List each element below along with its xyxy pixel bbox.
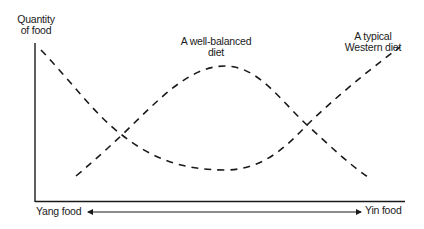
x-axis-right-label: Yin food — [365, 205, 402, 216]
y-axis-label: Quantity of food — [14, 14, 58, 36]
x-axis-left-label: Yang food — [36, 206, 81, 217]
y-axis-label-line2: of food — [14, 25, 58, 36]
balanced-diet-curve — [76, 66, 368, 177]
western-diet-label-line2: Western diet — [338, 42, 408, 53]
western-diet-label: A typical Western diet — [338, 31, 408, 53]
balanced-diet-label-line2: diet — [166, 47, 266, 58]
balanced-diet-label: A well-balanced diet — [166, 36, 266, 58]
